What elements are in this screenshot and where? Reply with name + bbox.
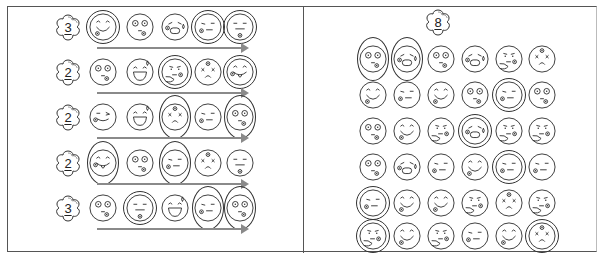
count-flower: 2: [53, 148, 83, 178]
emoji-face: [427, 117, 455, 145]
right-panel: 8: [304, 7, 596, 252]
emoji-face: [393, 222, 421, 250]
arrow: [97, 47, 247, 49]
count-flower: 2: [53, 57, 83, 87]
emoji-face: [461, 189, 489, 217]
emoji-face: [393, 117, 421, 145]
emoji-face: [89, 58, 117, 86]
emoji-face: [89, 149, 117, 177]
circle-mark: [223, 10, 257, 44]
emoji-face: [461, 222, 489, 250]
circle-mark: [525, 219, 559, 253]
oval-mark: [87, 141, 119, 185]
emoji-face: [495, 189, 523, 217]
emoji-face: [359, 153, 387, 181]
emoji-face: [427, 153, 455, 181]
emoji-face: [161, 194, 189, 222]
count-flower: 8: [423, 7, 453, 37]
emoji-face: [393, 45, 421, 73]
oval-mark: [192, 186, 224, 230]
emoji-face: [461, 117, 489, 145]
count-flower: 3: [53, 193, 83, 223]
count-number: 2: [53, 110, 83, 125]
emoji-face: [528, 45, 556, 73]
emoji-face: [226, 149, 254, 177]
circle-mark: [158, 55, 192, 89]
oval-mark: [391, 37, 423, 81]
emoji-face: [495, 153, 523, 181]
emoji-face: [461, 45, 489, 73]
emoji-face: [126, 149, 154, 177]
emoji-face: [528, 81, 556, 109]
emoji-face: [226, 194, 254, 222]
emoji-face: [126, 58, 154, 86]
count-number: 2: [53, 156, 83, 171]
emoji-face: [461, 153, 489, 181]
emoji-face: [126, 13, 154, 41]
circle-mark: [492, 150, 526, 184]
emoji-face: [126, 103, 154, 131]
oval-mark: [357, 37, 389, 81]
emoji-face: [359, 45, 387, 73]
emoji-face: [359, 189, 387, 217]
emoji-face: [161, 103, 189, 131]
emoji-face: [393, 81, 421, 109]
emoji-face: [194, 13, 222, 41]
emoji-face: [89, 103, 117, 131]
emoji-face: [528, 189, 556, 217]
emoji-face: [359, 117, 387, 145]
count-number: 8: [423, 15, 453, 30]
emoji-face: [495, 117, 523, 145]
oval-mark: [224, 186, 256, 230]
count-flower: 2: [53, 102, 83, 132]
circle-mark: [223, 55, 257, 89]
emoji-face: [393, 153, 421, 181]
count-number: 2: [53, 65, 83, 80]
emoji-face: [126, 194, 154, 222]
emoji-face: [89, 13, 117, 41]
arrow: [97, 228, 247, 230]
emoji-face: [359, 81, 387, 109]
emoji-face: [427, 189, 455, 217]
emoji-face: [393, 189, 421, 217]
emoji-face: [194, 149, 222, 177]
emoji-face: [359, 222, 387, 250]
oval-mark: [159, 95, 191, 139]
emoji-face: [495, 222, 523, 250]
emoji-face: [226, 58, 254, 86]
emoji-face: [226, 13, 254, 41]
emoji-face: [528, 153, 556, 181]
emoji-face: [528, 117, 556, 145]
circle-mark: [191, 10, 225, 44]
emoji-face: [89, 194, 117, 222]
left-panel: 32223: [8, 7, 303, 252]
oval-mark: [159, 141, 191, 185]
emoji-face: [427, 45, 455, 73]
circle-mark: [458, 114, 492, 148]
emoji-face: [495, 45, 523, 73]
circle-mark: [86, 10, 120, 44]
emoji-face: [226, 103, 254, 131]
circle-mark: [492, 78, 526, 112]
count-number: 3: [53, 201, 83, 216]
emoji-face: [495, 81, 523, 109]
oval-mark: [224, 95, 256, 139]
emoji-face: [161, 13, 189, 41]
emoji-face: [461, 81, 489, 109]
arrow: [97, 137, 247, 139]
emoji-face: [427, 81, 455, 109]
emoji-face: [194, 58, 222, 86]
count-number: 3: [53, 20, 83, 35]
circle-mark: [123, 191, 157, 225]
circle-mark: [356, 219, 390, 253]
circle-mark: [356, 186, 390, 220]
emoji-face: [427, 222, 455, 250]
arrow: [97, 183, 247, 185]
emoji-face: [528, 222, 556, 250]
emoji-face: [194, 103, 222, 131]
emoji-face: [161, 58, 189, 86]
emoji-face: [161, 149, 189, 177]
count-flower: 3: [53, 12, 83, 42]
arrow: [97, 92, 247, 94]
emoji-face: [194, 194, 222, 222]
